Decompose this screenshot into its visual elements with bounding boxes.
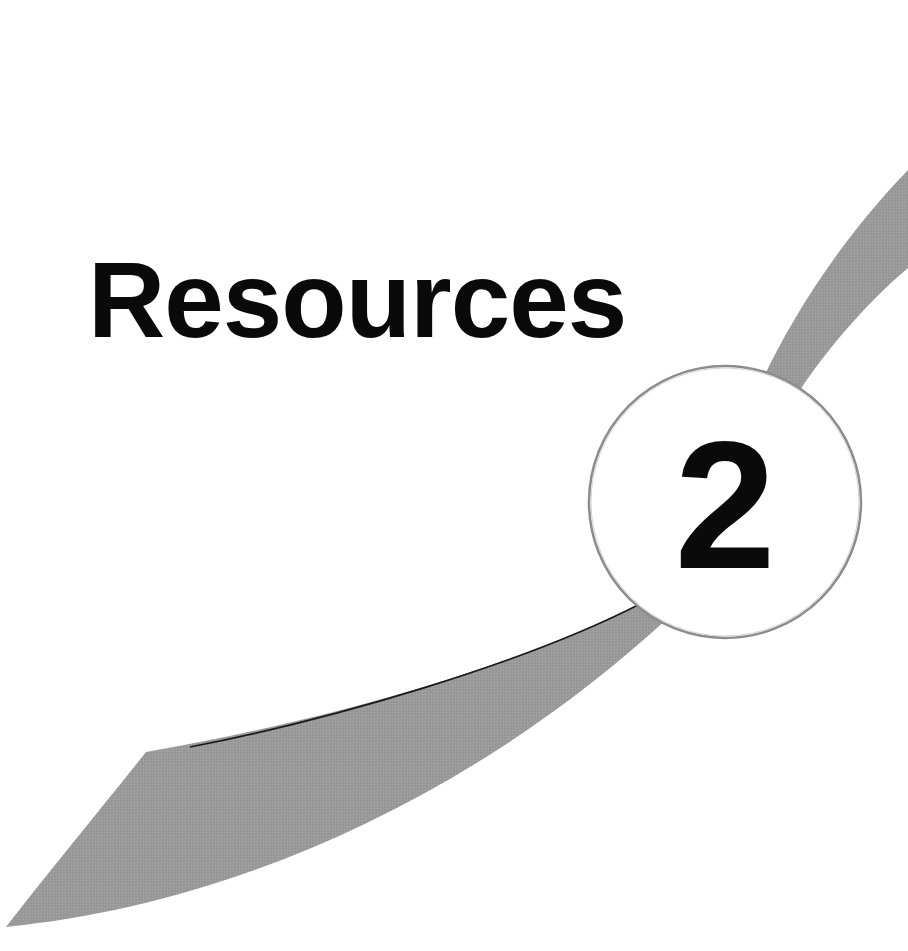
lower-swoosh-shape — [6, 605, 668, 927]
chapter-opener-page: Resources 2 — [0, 0, 908, 951]
upper-swoosh-shape — [760, 170, 908, 390]
chapter-title: Resources — [88, 240, 626, 360]
chapter-number: 2 — [588, 365, 862, 639]
